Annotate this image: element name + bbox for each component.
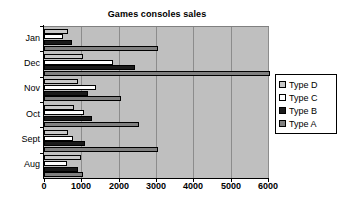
category-tick [40, 26, 43, 27]
category-axis-labels: AugSeptOctNovDecJan [0, 26, 40, 178]
value-tick [156, 179, 157, 182]
value-axis-labels: 0100020003000400050006000 [0, 181, 343, 197]
value-tick [119, 179, 120, 182]
value-tick [268, 179, 269, 182]
bar-jan-type-d [44, 29, 68, 34]
value-tick [231, 179, 232, 182]
gridline [268, 27, 269, 179]
bar-jan-type-a [44, 46, 158, 51]
legend-item-type-a[interactable]: Type A [279, 117, 334, 130]
legend-label: Type A [289, 119, 317, 129]
category-label-jan: Jan [0, 33, 40, 43]
category-label-oct: Oct [0, 109, 40, 119]
bar-dec-type-b [44, 65, 135, 70]
legend-label: Type B [289, 106, 317, 116]
bar-oct-type-d [44, 105, 74, 110]
value-label-5000: 5000 [221, 181, 241, 191]
bar-aug-type-b [44, 167, 78, 172]
value-label-3000: 3000 [146, 181, 166, 191]
legend-swatch-icon [279, 107, 286, 114]
category-tick [40, 127, 43, 128]
category-label-dec: Dec [0, 58, 40, 68]
bar-oct-type-c [44, 110, 84, 115]
bar-sept-type-b [44, 141, 85, 146]
value-label-6000: 6000 [258, 181, 278, 191]
bar-aug-type-d [44, 155, 81, 160]
value-label-1000: 1000 [71, 181, 91, 191]
bar-nov-type-b [44, 91, 88, 96]
value-tick [193, 179, 194, 182]
gridline [231, 27, 232, 179]
bar-dec-type-d [44, 54, 83, 59]
legend-item-type-d[interactable]: Type D [279, 78, 334, 91]
value-tick [81, 179, 82, 182]
bar-sept-type-a [44, 147, 158, 152]
bar-nov-type-a [44, 96, 121, 101]
value-tick [44, 179, 45, 182]
bar-jan-type-c [44, 34, 63, 39]
bar-nov-type-c [44, 85, 96, 90]
gridline [193, 27, 194, 179]
category-tick [40, 153, 43, 154]
category-label-nov: Nov [0, 83, 40, 93]
plot-area [44, 26, 269, 179]
bar-oct-type-a [44, 122, 139, 127]
legend-label: Type C [289, 93, 318, 103]
legend-item-type-b[interactable]: Type B [279, 104, 334, 117]
legend-swatch-icon [279, 81, 286, 88]
chart-container: Games consoles sales AugSeptOctNovDecJan… [0, 0, 343, 217]
value-label-0: 0 [41, 181, 46, 191]
value-axis-line [43, 25, 44, 179]
category-tick [40, 77, 43, 78]
bar-aug-type-a [44, 172, 83, 177]
bar-sept-type-c [44, 136, 73, 141]
bar-aug-type-c [44, 161, 67, 166]
bar-sept-type-d [44, 130, 68, 135]
bar-oct-type-b [44, 116, 92, 121]
legend-swatch-icon [279, 94, 286, 101]
bar-nov-type-d [44, 79, 78, 84]
bar-jan-type-b [44, 40, 72, 45]
bar-dec-type-c [44, 60, 113, 65]
category-tick [40, 102, 43, 103]
value-label-4000: 4000 [183, 181, 203, 191]
category-tick [40, 51, 43, 52]
legend-label: Type D [289, 80, 318, 90]
legend-item-type-c[interactable]: Type C [279, 91, 334, 104]
category-label-sept: Sept [0, 134, 40, 144]
legend-swatch-icon [279, 120, 286, 127]
value-label-2000: 2000 [109, 181, 129, 191]
category-label-aug: Aug [0, 159, 40, 169]
chart-title: Games consoles sales [52, 9, 262, 19]
bar-dec-type-a [44, 71, 270, 76]
chart-legend: Type DType CType BType A [275, 74, 337, 134]
